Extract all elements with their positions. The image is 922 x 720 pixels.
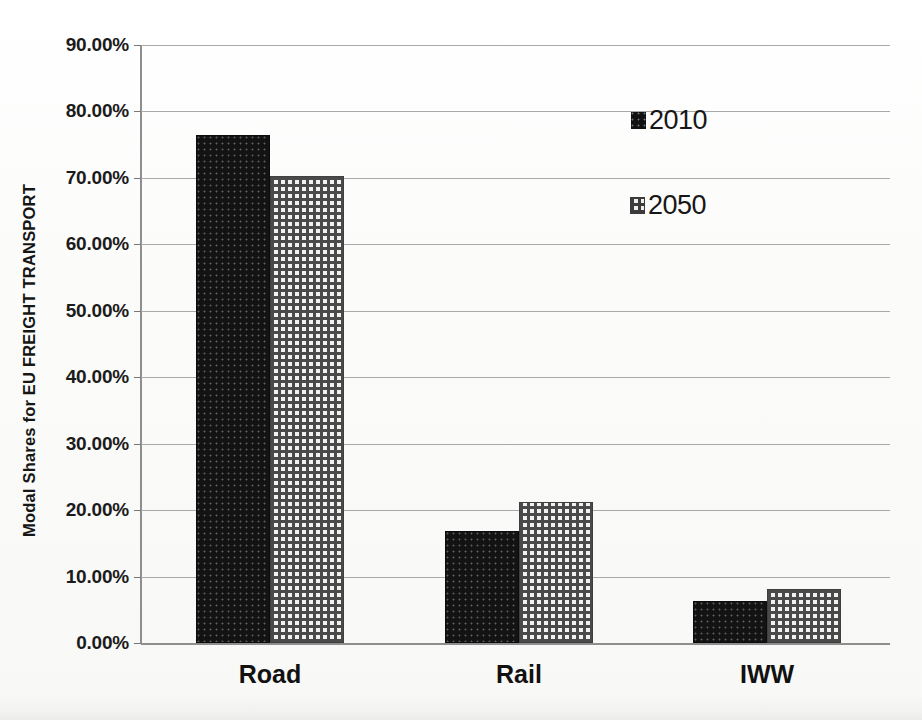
scan-artifact (0, 694, 922, 720)
legend-label-2010: 2010 (649, 105, 707, 136)
y-tick-mark (134, 643, 141, 644)
legend-swatch-2050-icon (630, 197, 645, 214)
bar-iww-2010 (693, 601, 767, 643)
bar-road-2010 (196, 135, 270, 643)
y-tick-mark (134, 311, 141, 312)
x-tick-label-iww: IWW (740, 660, 794, 689)
y-tick-mark (134, 111, 141, 112)
chart-page: Modal Shares for EU FREIGHT TRANSPORT 0.… (0, 0, 922, 720)
x-tick-label-road: Road (239, 660, 302, 689)
y-tick-mark (134, 510, 141, 511)
y-tick-label: 70.00% (66, 167, 129, 189)
bar-road-2050 (270, 176, 344, 643)
y-tick-label: 10.00% (66, 566, 129, 588)
y-tick-label: 50.00% (66, 300, 129, 322)
bar-rail-2010 (445, 531, 519, 643)
y-axis-line (140, 45, 142, 643)
y-axis-title: Modal Shares for EU FREIGHT TRANSPORT (14, 0, 44, 720)
legend-item-2010[interactable]: 2010 (631, 105, 707, 136)
x-tick-label-rail: Rail (496, 660, 542, 689)
legend-swatch-2010-icon (631, 112, 646, 129)
legend-item-2050[interactable]: 2050 (630, 190, 706, 221)
bar-iww-2050 (767, 589, 841, 643)
bar-rail-2050 (519, 502, 593, 643)
legend-label-2050: 2050 (648, 190, 706, 221)
y-tick-label: 20.00% (66, 499, 129, 521)
y-tick-label: 80.00% (66, 100, 129, 122)
y-tick-mark (134, 377, 141, 378)
gridline-80.00% (141, 111, 890, 112)
y-axis-title-text: Modal Shares for EU FREIGHT TRANSPORT (20, 183, 39, 536)
y-tick-label: 30.00% (66, 433, 129, 455)
y-tick-mark (134, 45, 141, 46)
y-tick-label: 0.00% (76, 632, 129, 654)
y-tick-mark (134, 577, 141, 578)
plot-area: 0.00%10.00%20.00%30.00%40.00%50.00%60.00… (141, 45, 890, 643)
y-tick-label: 40.00% (66, 366, 129, 388)
gridline-90.00% (141, 45, 890, 46)
y-tick-label: 90.00% (66, 34, 129, 56)
y-tick-label: 60.00% (66, 233, 129, 255)
y-tick-mark (134, 178, 141, 179)
y-tick-mark (134, 244, 141, 245)
gridline-0.00% (141, 643, 890, 645)
y-tick-mark (134, 444, 141, 445)
